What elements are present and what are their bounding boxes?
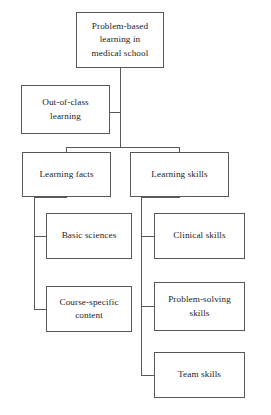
node-problem-solving-skills-label: Problem-solving skills (165, 293, 234, 320)
node-out-of-class-learning: Out-of-class learning (21, 85, 110, 134)
node-team-skills: Team skills (154, 352, 245, 398)
node-team-skills-label: Team skills (175, 368, 224, 382)
connector-left-branch-trunk (34, 197, 35, 309)
connector-to-problem-solving (141, 306, 155, 307)
connector-root-trunk (120, 68, 121, 148)
connector-right-branch-trunk (141, 197, 142, 375)
connector-to-team-skills (141, 375, 155, 376)
node-learning-facts: Learning facts (22, 152, 111, 197)
connector-learning-facts-stem (34, 197, 67, 198)
connector-learning-skills-stem (141, 197, 180, 198)
connector-root-to-out-of-class (110, 112, 121, 113)
node-clinical-skills: Clinical skills (154, 213, 245, 259)
node-learning-skills: Learning skills (130, 152, 229, 197)
node-course-specific-content-label: Course-specific content (56, 296, 121, 323)
node-course-specific-content: Course-specific content (46, 286, 132, 332)
node-out-of-class-learning-label: Out-of-class learning (39, 96, 92, 123)
node-learning-skills-label: Learning skills (148, 168, 210, 182)
diagram-canvas: Problem-based learning in medical school… (0, 0, 271, 415)
connector-to-clinical-skills (141, 236, 155, 237)
connector-level2-bus (66, 147, 180, 148)
node-problem-solving-skills: Problem-solving skills (154, 282, 245, 331)
node-clinical-skills-label: Clinical skills (170, 229, 228, 243)
node-basic-sciences-label: Basic sciences (59, 229, 120, 243)
node-basic-sciences: Basic sciences (46, 213, 132, 259)
node-root: Problem-based learning in medical school (76, 12, 164, 68)
node-learning-facts-label: Learning facts (36, 168, 96, 182)
node-root-label: Problem-based learning in medical school (89, 20, 152, 61)
